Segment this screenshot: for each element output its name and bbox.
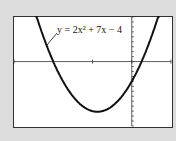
label-pointer: [47, 33, 57, 45]
equation-label: y = 2x² + 7x − 4: [57, 24, 122, 35]
graph-plot: [0, 0, 187, 141]
